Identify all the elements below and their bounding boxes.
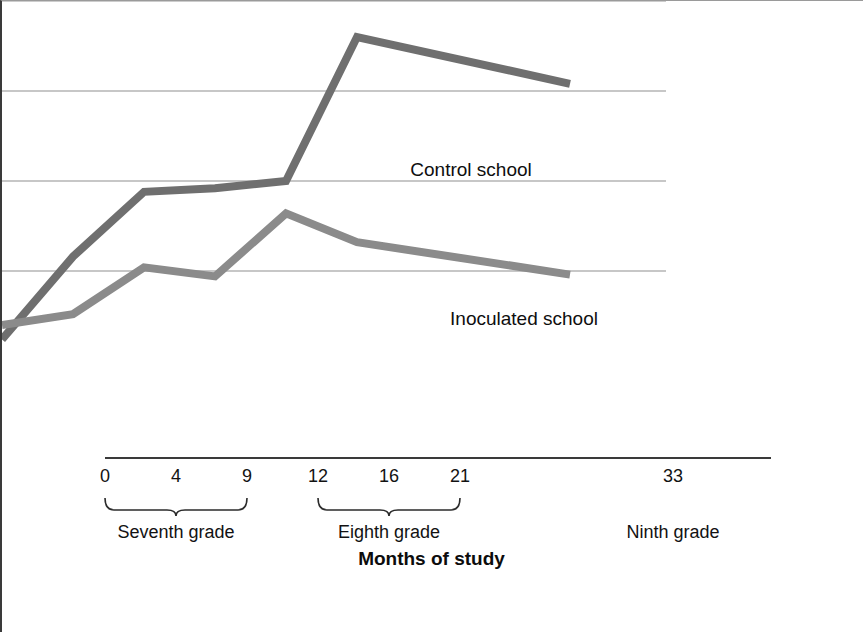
grade-label-ninth-grade: Ninth grade bbox=[626, 522, 719, 543]
x-tick-16: 16 bbox=[379, 466, 399, 487]
series-label-control-school: Control school bbox=[410, 159, 531, 181]
figure-chart-smoking: Percent smoking 20 15 10 5 0 04912162133… bbox=[0, 0, 863, 632]
x-tick-9: 9 bbox=[242, 466, 252, 487]
grade-label-eighth-grade: Eighth grade bbox=[338, 522, 440, 543]
series-label-inoculated-school: Inoculated school bbox=[450, 308, 598, 330]
x-tick-12: 12 bbox=[308, 466, 328, 487]
x-tick-21: 21 bbox=[450, 466, 470, 487]
plot-svg bbox=[2, 1, 666, 361]
x-tick-4: 4 bbox=[171, 466, 181, 487]
x-axis-title: Months of study bbox=[0, 548, 863, 570]
x-tick-0: 0 bbox=[100, 466, 110, 487]
grade-label-seventh-grade: Seventh grade bbox=[117, 522, 234, 543]
series-lines bbox=[2, 37, 570, 339]
x-axis-line bbox=[105, 457, 771, 459]
x-tick-33: 33 bbox=[663, 466, 683, 487]
